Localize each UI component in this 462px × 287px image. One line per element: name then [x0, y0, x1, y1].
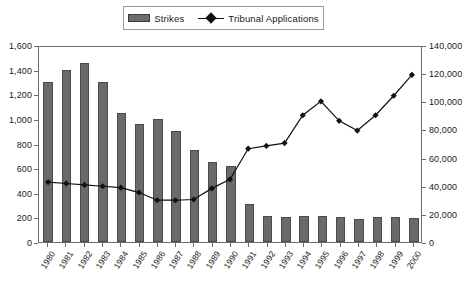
data-point-1997: [354, 128, 360, 134]
x-axis-tick-1992: [267, 243, 268, 247]
legend-label-strikes: Strikes: [154, 13, 184, 24]
bar-1984: [117, 113, 127, 242]
bar-swatch-icon: [128, 14, 150, 22]
y-axis-left-tick-8: [34, 46, 38, 47]
bar-1992: [263, 216, 273, 242]
y-axis-right-label-4: 80,000: [429, 125, 457, 135]
y-axis-left-label-0: 0: [0, 238, 32, 248]
y-axis-left-label-6: 1,200: [0, 90, 32, 100]
data-point-1995: [318, 98, 324, 104]
y-axis-right-tick-6: [422, 74, 426, 75]
y-axis-right-label-0: 0: [429, 238, 434, 248]
y-axis-left-label-3: 600: [0, 164, 32, 174]
y-axis-left-tick-6: [34, 95, 38, 96]
y-axis-right-label-5: 100,000: [429, 97, 462, 107]
y-axis-left-label-5: 1,000: [0, 115, 32, 125]
bar-1986: [153, 119, 163, 242]
x-axis-tick-1983: [102, 243, 103, 247]
y-axis-left-label-1: 200: [0, 213, 32, 223]
y-axis-left-tick-7: [34, 71, 38, 72]
y-axis-right-tick-4: [422, 130, 426, 131]
y-axis-right-tick-3: [422, 159, 426, 160]
data-point-1992: [263, 143, 269, 149]
bar-1991: [245, 204, 255, 242]
y-axis-left-tick-2: [34, 194, 38, 195]
x-axis-tick-1980: [47, 243, 48, 247]
bar-1999: [391, 217, 401, 242]
y-axis-right-label-6: 120,000: [429, 69, 462, 79]
y-axis-left-tick-0: [34, 243, 38, 244]
plot-inner: [39, 47, 421, 242]
data-point-1999: [391, 93, 397, 99]
x-axis-tick-1989: [212, 243, 213, 247]
x-axis-tick-1996: [340, 243, 341, 247]
x-axis-tick-1997: [358, 243, 359, 247]
chart-container: Strikes Tribunal Applications 0200400600…: [0, 0, 462, 287]
bar-2000: [409, 218, 419, 242]
bar-1983: [98, 82, 108, 242]
y-axis-left-label-8: 1,600: [0, 41, 32, 51]
legend-item-strikes: Strikes: [128, 13, 184, 24]
bar-1987: [171, 131, 181, 242]
y-axis-left-label-2: 400: [0, 189, 32, 199]
y-axis-left-tick-3: [34, 169, 38, 170]
y-axis-left-tick-5: [34, 120, 38, 121]
y-axis-right-tick-1: [422, 215, 426, 216]
bar-1993: [281, 217, 291, 242]
plot-area: [38, 46, 422, 243]
data-point-1996: [336, 118, 342, 124]
x-axis-tick-1994: [303, 243, 304, 247]
bar-1997: [354, 219, 364, 242]
y-axis-left-tick-4: [34, 145, 38, 146]
x-axis-tick-1984: [120, 243, 121, 247]
x-axis-tick-1988: [193, 243, 194, 247]
data-point-1993: [281, 140, 287, 146]
y-axis-left-tick-1: [34, 218, 38, 219]
bar-1988: [190, 150, 200, 242]
x-axis-tick-1987: [175, 243, 176, 247]
x-axis-tick-1990: [230, 243, 231, 247]
bar-1989: [208, 162, 218, 242]
y-axis-left-label-7: 1,400: [0, 66, 32, 76]
data-point-1998: [372, 112, 378, 118]
data-point-1991: [245, 146, 251, 152]
bar-1985: [135, 124, 145, 242]
y-axis-right-tick-2: [422, 187, 426, 188]
x-axis-label-1996: 1996: [328, 249, 351, 276]
x-axis-tick-1995: [321, 243, 322, 247]
bar-1998: [373, 217, 383, 242]
data-point-1994: [300, 112, 306, 118]
y-axis-right-tick-0: [422, 243, 426, 244]
bar-1995: [318, 216, 328, 242]
bar-1996: [336, 217, 346, 242]
bar-1980: [43, 82, 53, 242]
line-diamond-icon: [198, 14, 224, 23]
x-axis-tick-1999: [395, 243, 396, 247]
data-point-2000: [409, 72, 415, 78]
legend-label-tribunal-applications: Tribunal Applications: [228, 13, 318, 24]
y-axis-right-tick-7: [422, 46, 426, 47]
bar-1981: [62, 70, 72, 242]
legend-item-tribunal-applications: Tribunal Applications: [198, 13, 318, 24]
x-axis-tick-1991: [248, 243, 249, 247]
x-axis-tick-1982: [84, 243, 85, 247]
x-axis-label-1982: 1982: [72, 249, 95, 276]
x-axis-tick-1993: [285, 243, 286, 247]
y-axis-right-label-3: 60,000: [429, 154, 457, 164]
y-axis-left-label-4: 800: [0, 140, 32, 150]
chart-legend: Strikes Tribunal Applications: [123, 6, 324, 30]
y-axis-right-label-2: 40,000: [429, 182, 457, 192]
x-axis-label-1989: 1989: [200, 249, 223, 276]
bar-1990: [226, 166, 236, 242]
x-axis-tick-1985: [139, 243, 140, 247]
bar-1994: [299, 216, 309, 242]
x-axis-tick-2000: [413, 243, 414, 247]
x-axis-tick-1986: [157, 243, 158, 247]
y-axis-right-label-7: 140,000: [429, 41, 462, 51]
bar-1982: [80, 63, 90, 242]
x-axis-tick-1981: [65, 243, 66, 247]
x-axis-tick-1998: [376, 243, 377, 247]
y-axis-right-tick-5: [422, 102, 426, 103]
y-axis-right-label-1: 20,000: [429, 210, 457, 220]
